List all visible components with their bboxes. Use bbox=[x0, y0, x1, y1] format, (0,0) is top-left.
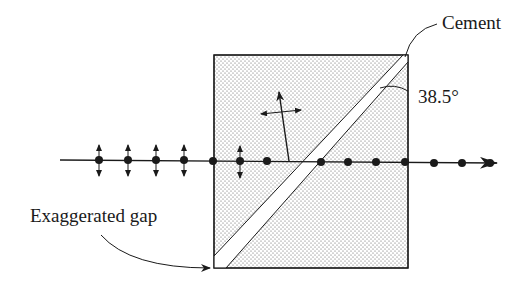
cement-label: Cement bbox=[442, 12, 502, 33]
gap-leader bbox=[101, 235, 210, 268]
prism-diagram: 38.5° Cement Exaggerated gap bbox=[0, 0, 524, 298]
cement-leader bbox=[405, 24, 437, 57]
gap-label: Exaggerated gap bbox=[30, 205, 157, 226]
angle-label: 38.5° bbox=[418, 86, 459, 107]
